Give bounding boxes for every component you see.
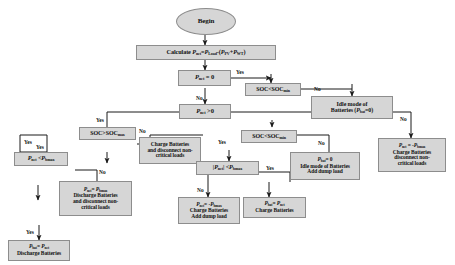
node-idle-batteries-1-label: Idle mode ofBatteries (Pbat=0) [313, 101, 391, 114]
edge-label-no-7: No [197, 187, 204, 193]
node-begin[interactable]: Begin [176, 8, 236, 35]
edge-label-no-2: No [196, 95, 203, 101]
edge-label-no-1: No [314, 86, 321, 92]
edge-label-no-5: No [318, 140, 325, 146]
node-pnet-neg-pbmax-charge-disc-label: Pnet = -PbmaxCharge Batteriesdisconnect … [380, 143, 444, 167]
edge-label-yes-7: Yes [26, 229, 34, 235]
node-pnet-eq-pbmax-discharge[interactable]: Pnet= PbmaxDischarge Batteriesand discon… [59, 181, 132, 216]
node-soc-lt-socmin-2-label: SOC<SOCmin [243, 133, 295, 140]
node-pnet-eq-pbmax-discharge-label: Pnet= PbmaxDischarge Batteriesand discon… [61, 187, 130, 211]
node-pnet-gt-zero[interactable]: Pnet >0 [179, 104, 231, 119]
edge-label-yes-4: Yes [218, 139, 226, 145]
node-charge-disconnect[interactable]: Charge Batteriesand disconnect non-criti… [139, 137, 201, 164]
node-calculate[interactable]: Calculate Pnet=PLoad-(PPV+PWT) [136, 45, 276, 60]
edge-label-yes-5: Yes [36, 144, 44, 150]
edge-label-yes-3: Yes [24, 139, 32, 145]
node-abs-pnet-lt-pbmax[interactable]: |Pnet| <Pbmax [196, 161, 259, 175]
node-pbat-eq-pnet-charge-label: Pbat= PnetCharge Batteries [245, 201, 304, 213]
edge-label-yes-1: Yes [236, 69, 244, 75]
node-pbat-eq-pnet-discharge[interactable]: Pbat= PnetDischarge Batteries [8, 240, 70, 261]
edge-label-no-3: No [400, 116, 407, 122]
edge-label-no-6: No [99, 169, 106, 175]
node-pnet-zero-label: Pnet = 0 [180, 74, 229, 81]
node-idle-batteries-1[interactable]: Idle mode ofBatteries (Pbat=0) [311, 96, 393, 119]
node-charge-disconnect-label: Charge Batteriesand disconnect non-criti… [141, 142, 199, 159]
node-abs-pnet-lt-pbmax-label: |Pnet| <Pbmax [198, 164, 257, 171]
edge-label-no-4: No [139, 128, 146, 134]
node-pbat-eq-pnet-charge[interactable]: Pbat= PnetCharge Batteries [243, 197, 306, 218]
node-pbat-zero-dump-label: Pbat= 0Idle mode of BatteriesAdd dump lo… [292, 157, 358, 175]
node-soc-lt-socmin-2[interactable]: SOC<SOCmin [241, 130, 297, 143]
flowchart-canvas: Begin Calculate Pnet=PLoad-(PPV+PWT) Pne… [0, 0, 455, 265]
node-pnet-zero[interactable]: Pnet = 0 [178, 70, 231, 86]
edge-label-yes-2: Yes [96, 117, 104, 123]
node-pnet-lt-pbmax[interactable]: Pnet <Pbmax [14, 152, 68, 166]
node-pnet-lt-pbmax-label: Pnet <Pbmax [16, 155, 66, 162]
node-calculate-label: Calculate Pnet=PLoad-(PPV+PWT) [138, 49, 274, 56]
node-pbat-zero-dump[interactable]: Pbat= 0Idle mode of BatteriesAdd dump lo… [290, 152, 360, 180]
flowchart-connectors [0, 0, 455, 265]
node-pbat-eq-pnet-discharge-label: Pbat= PnetDischarge Batteries [10, 244, 68, 256]
node-pnet-neg-pbmax-label: Pnet= -PbmaxCharge BatteriesAdd dump loa… [180, 202, 238, 220]
edge-label-yes-6: Yes [266, 165, 274, 171]
node-soc-gt-socmax-label: SOC>SOCmax [81, 130, 134, 137]
node-pnet-neg-pbmax[interactable]: Pnet= -PbmaxCharge BatteriesAdd dump loa… [178, 197, 240, 224]
node-soc-lt-socmin-1[interactable]: SOC<SOCmin [245, 83, 301, 96]
node-begin-label: Begin [178, 18, 234, 25]
node-pnet-neg-pbmax-charge-disc[interactable]: Pnet = -PbmaxCharge Batteriesdisconnect … [378, 138, 446, 172]
node-soc-gt-socmax[interactable]: SOC>SOCmax [79, 127, 136, 140]
node-soc-lt-socmin-1-label: SOC<SOCmin [247, 86, 299, 93]
node-pnet-gt-zero-label: Pnet >0 [181, 108, 229, 115]
